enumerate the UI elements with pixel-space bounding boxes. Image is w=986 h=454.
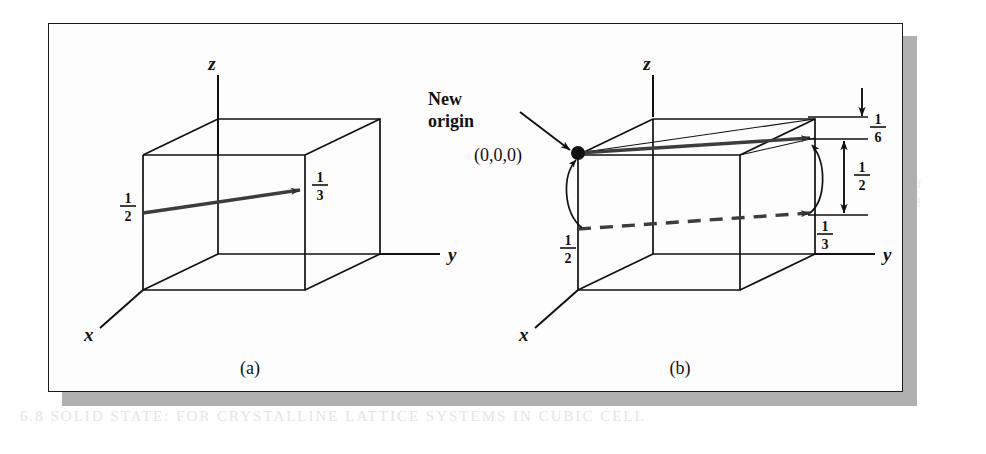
panel-b-cube-edge-bl	[578, 254, 653, 290]
panel-b-cube-front-face	[578, 155, 740, 290]
panel-a-cube-edge-br	[305, 254, 380, 290]
panel-b-right-arc	[810, 145, 823, 213]
panel-b-x-label: x	[518, 324, 529, 345]
panel-a-head-denominator: 3	[317, 188, 324, 203]
panel-b-z-label: z	[642, 53, 651, 74]
panel-a-cube-edge-tr	[305, 119, 380, 155]
panel-b-projected-vector[interactable]	[578, 213, 810, 229]
panel-a-y-label: y	[446, 244, 457, 265]
panel-a-x-axis	[100, 290, 143, 328]
panel-a-caption: (a)	[240, 358, 260, 379]
panel-b-cube-edge-br	[740, 254, 815, 290]
panel-b: z y x New origin (0,0,0) 1 2 1 3 1	[428, 53, 892, 379]
panel-b-lower-right-denominator: 3	[822, 237, 829, 252]
panel-b-lower-right-fraction: 1 3	[817, 219, 833, 252]
panel-a-cube-edge-bl	[143, 254, 218, 290]
panel-a-cube-edge-tl	[143, 119, 218, 155]
figure-drawing: z y x 1 2 1 3 (a)	[0, 0, 986, 454]
panel-b-origin-coords: (0,0,0)	[474, 145, 522, 166]
panel-b-new-origin-line2: origin	[428, 111, 474, 131]
panel-a-cube-front-face	[143, 155, 305, 290]
figure-page: we the thermal and vertical components o…	[0, 0, 986, 454]
panel-b-new-origin-line1: New	[428, 89, 462, 109]
panel-a-tail-numerator: 1	[125, 191, 132, 206]
panel-a-z-label: z	[207, 53, 216, 74]
panel-a-direction-vector[interactable]	[143, 190, 300, 213]
panel-b-dim-sixth-numerator: 1	[875, 112, 882, 127]
panel-b-left-numerator: 1	[565, 233, 572, 248]
panel-b-dim-half-denominator: 2	[859, 178, 866, 193]
panel-b-dim-half-fraction: 1 2	[854, 160, 870, 193]
panel-b-origin-dot	[571, 146, 585, 160]
panel-b-left-arc	[566, 160, 582, 228]
panel-b-lower-right-numerator: 1	[822, 219, 829, 234]
panel-b-dim-sixth-denominator: 6	[875, 130, 882, 145]
panel-a-head-numerator: 1	[317, 170, 324, 185]
panel-a-tail-denominator: 2	[125, 209, 132, 224]
panel-b-left-fraction: 1 2	[560, 233, 576, 266]
panel-b-left-denominator: 2	[565, 251, 572, 266]
panel-a-x-label: x	[83, 324, 94, 345]
panel-b-y-label: y	[881, 244, 892, 265]
panel-b-dim-sixth-fraction: 1 6	[870, 112, 886, 145]
panel-a-cube-back-face	[218, 119, 380, 254]
panel-b-x-axis	[535, 290, 578, 328]
panel-b-direction-vector[interactable]	[578, 138, 810, 153]
panel-b-origin-pointer	[520, 112, 570, 150]
panel-a: z y x 1 2 1 3 (a)	[83, 53, 457, 379]
panel-b-caption: (b)	[670, 358, 691, 379]
panel-a-tail-fraction: 1 2	[120, 191, 136, 224]
panel-a-head-fraction: 1 3	[312, 170, 328, 203]
panel-b-dim-half-numerator: 1	[859, 160, 866, 175]
